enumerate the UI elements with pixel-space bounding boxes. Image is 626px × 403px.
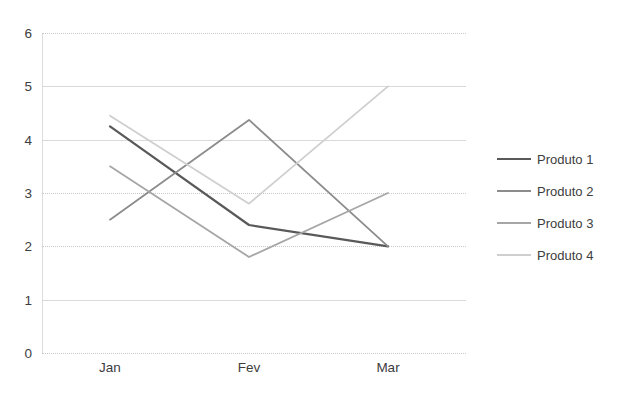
chart-legend: Produto 1Produto 2Produto 3Produto 4 xyxy=(497,143,622,271)
legend-item-4[interactable]: Produto 4 xyxy=(497,239,622,271)
legend-item-3[interactable]: Produto 3 xyxy=(497,207,622,239)
legend-label: Produto 2 xyxy=(537,184,593,199)
x-tick-label: Fev xyxy=(238,360,261,375)
legend-label: Produto 1 xyxy=(537,152,593,167)
y-tick-label: 2 xyxy=(24,239,32,254)
legend-label: Produto 4 xyxy=(537,248,593,263)
line-chart: 6543210 JanFevMar Produto 1Produto 2Prod… xyxy=(0,0,626,403)
legend-swatch-icon xyxy=(497,222,531,224)
x-tick-label: Mar xyxy=(376,360,399,375)
x-axis-labels: JanFevMar xyxy=(42,360,466,384)
series-line-2 xyxy=(110,120,388,246)
x-tick-label: Jan xyxy=(99,360,121,375)
y-tick-label: 4 xyxy=(24,132,32,147)
series-lines xyxy=(42,33,466,353)
gridline-y-0 xyxy=(42,353,466,354)
y-tick-label: 6 xyxy=(24,26,32,41)
series-line-4 xyxy=(110,86,388,203)
legend-swatch-icon xyxy=(497,158,531,160)
legend-item-1[interactable]: Produto 1 xyxy=(497,143,622,175)
legend-swatch-icon xyxy=(497,254,531,256)
y-tick-label: 1 xyxy=(24,292,32,307)
legend-label: Produto 3 xyxy=(537,216,593,231)
y-tick-label: 3 xyxy=(24,186,32,201)
series-line-3 xyxy=(110,166,388,257)
y-tick-label: 0 xyxy=(24,346,32,361)
y-axis-labels: 6543210 xyxy=(0,0,38,403)
legend-swatch-icon xyxy=(497,190,531,192)
legend-item-2[interactable]: Produto 2 xyxy=(497,175,622,207)
y-tick-label: 5 xyxy=(24,79,32,94)
series-line-1 xyxy=(110,126,388,246)
plot-area xyxy=(42,33,466,353)
